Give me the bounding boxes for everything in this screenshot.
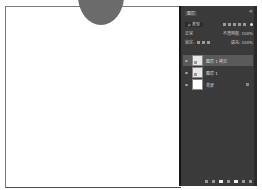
blend-row: 正常 不透明度: 100% xyxy=(185,30,253,36)
layer-filter-row: ρ 类型 xyxy=(185,22,253,27)
lock-position-icon[interactable] xyxy=(202,41,205,44)
lock-pixels-icon[interactable] xyxy=(197,41,200,44)
eye-icon[interactable] xyxy=(185,72,188,74)
fill-field[interactable]: 填充: 100% xyxy=(231,39,253,45)
filter-toggle[interactable] xyxy=(250,23,253,26)
adjustment-icon[interactable] xyxy=(227,180,230,183)
tab-layers-label: 图层 xyxy=(187,11,195,16)
filter-kind-select[interactable]: ρ 类型 xyxy=(185,22,203,27)
delete-icon[interactable] xyxy=(249,180,252,183)
layer-row[interactable]: 背景 xyxy=(183,79,253,90)
fx-icon[interactable] xyxy=(212,180,215,183)
lock-all-icon[interactable] xyxy=(207,41,210,44)
shape-filter-icon[interactable] xyxy=(238,23,241,26)
panel-scrollbar[interactable] xyxy=(254,6,257,186)
eye-icon[interactable] xyxy=(185,60,188,62)
type-filter-icon[interactable] xyxy=(233,23,236,26)
panel-menu-icon[interactable]: ≡ xyxy=(249,8,253,14)
blend-mode-select[interactable]: 正常 xyxy=(185,30,193,36)
opacity-field[interactable]: 不透明度: 100% xyxy=(223,30,253,36)
layer-thumbnail xyxy=(192,79,203,90)
smart-object-filter-icon[interactable] xyxy=(243,23,246,26)
eye-icon[interactable] xyxy=(185,84,188,86)
lock-label: 锁定: xyxy=(185,39,194,45)
layer-row[interactable]: 图层 1 拷贝 xyxy=(183,55,253,66)
mask-icon[interactable] xyxy=(219,180,223,183)
tab-layers[interactable]: 图层 xyxy=(185,11,197,16)
layer-name: 图层 1 拷贝 xyxy=(206,58,227,64)
adjustment-filter-icon[interactable] xyxy=(228,23,231,26)
group-icon[interactable] xyxy=(234,180,238,183)
document-canvas[interactable] xyxy=(5,6,181,188)
circle-shape xyxy=(78,0,124,25)
layer-thumbnail xyxy=(192,67,203,78)
lock-row: 锁定: 填充: 100% xyxy=(185,39,253,45)
layers-panel: 图层 ≡ ρ 类型 正常 不透明度: 100% 锁定: 填充: 100% 图层 … xyxy=(179,6,256,186)
lock-icon xyxy=(246,83,249,86)
link-icon[interactable] xyxy=(205,180,208,183)
layer-name: 背景 xyxy=(206,82,214,88)
layer-row[interactable]: 图层 1 xyxy=(183,67,253,78)
layer-thumbnail xyxy=(192,55,203,66)
new-layer-icon[interactable] xyxy=(242,180,245,183)
layers-footer xyxy=(191,180,252,183)
layer-name: 图层 1 xyxy=(206,70,218,76)
pixel-filter-icon[interactable] xyxy=(223,23,226,26)
